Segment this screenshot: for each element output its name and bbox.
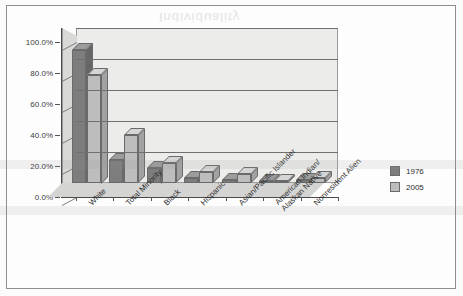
bar-face <box>274 181 288 183</box>
chart-legend: 19762005 <box>390 166 450 198</box>
legend-item-1976: 1976 <box>390 166 450 176</box>
bar-2005-6 <box>311 178 325 183</box>
legend-item-2005: 2005 <box>390 182 450 192</box>
gridline <box>76 28 338 29</box>
bar-2005-1 <box>124 135 138 183</box>
y-axis-tick <box>55 135 60 136</box>
bar-1976-6 <box>296 180 310 183</box>
bar-face <box>199 172 213 183</box>
bar-face <box>72 50 86 183</box>
plot-area <box>62 28 338 196</box>
bar-series-container <box>62 28 338 197</box>
x-axis-tick <box>226 197 227 201</box>
bar-face <box>311 178 325 183</box>
bar-1976-3 <box>184 178 198 183</box>
bar-face <box>222 180 236 183</box>
y-axis-tick-label: 20.0% <box>30 162 53 171</box>
gridline <box>76 59 338 60</box>
chart-page: Individuality 0.0%20.0%40.0%60.0%80.0%10… <box>0 0 463 296</box>
legend-swatch-icon <box>390 166 400 176</box>
y-axis-tick-label: 60.0% <box>30 100 53 109</box>
y-axis-tick-label: 100.0% <box>26 38 53 47</box>
bar-side <box>101 68 108 184</box>
bar-1976-4 <box>222 180 236 183</box>
bar-2005-4 <box>237 174 251 183</box>
x-axis-tick <box>76 197 77 201</box>
bar-face <box>184 178 198 183</box>
bar-face <box>237 174 251 183</box>
bar-side <box>138 128 145 183</box>
x-axis-tick <box>188 197 189 201</box>
gridline-connector <box>62 197 77 206</box>
bar-face <box>162 163 176 183</box>
x-axis-tick <box>338 197 339 201</box>
bar-face <box>124 135 138 183</box>
legend-label: 2005 <box>406 183 424 192</box>
bar-1976-0 <box>72 50 86 183</box>
gridline <box>76 121 338 122</box>
x-axis-line <box>61 197 339 198</box>
y-axis-tick-label: 40.0% <box>30 131 53 140</box>
bar-2005-5 <box>274 181 288 183</box>
y-axis-tick <box>55 104 60 105</box>
bar-1976-5 <box>259 181 273 183</box>
bar-face <box>147 168 161 184</box>
y-axis-tick <box>55 166 60 167</box>
x-axis-tick <box>301 197 302 201</box>
bar-1976-1 <box>109 160 123 183</box>
gridline <box>76 90 338 91</box>
x-axis-tick <box>151 197 152 201</box>
bar-2005-2 <box>162 163 176 183</box>
bar-face <box>296 180 310 183</box>
chart-frame: Individuality 0.0%20.0%40.0%60.0%80.0%10… <box>6 5 456 289</box>
y-axis-tick-label: 80.0% <box>30 69 53 78</box>
bar-2005-3 <box>199 172 213 183</box>
y-axis-tick <box>55 197 60 198</box>
legend-swatch-icon <box>390 182 400 192</box>
y-axis: 0.0%20.0%40.0%60.0%80.0%100.0% <box>7 6 62 198</box>
legend-label: 1976 <box>406 167 424 176</box>
y-axis-tick <box>55 42 60 43</box>
bar-face <box>259 181 273 183</box>
watermark-text: Individuality <box>159 9 309 25</box>
x-axis-tick <box>113 197 114 201</box>
x-axis-tick <box>263 197 264 201</box>
bar-face <box>109 160 123 183</box>
y-axis-tick <box>55 73 60 74</box>
bar-1976-2 <box>147 168 161 184</box>
gridline <box>76 152 338 153</box>
